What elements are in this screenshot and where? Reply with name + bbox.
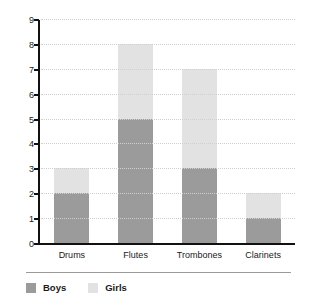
gridline [41, 168, 295, 170]
bar-segment-girls[interactable] [118, 44, 153, 119]
bar-segment-boys[interactable] [246, 218, 281, 243]
y-axis-tick-label: 6 [20, 90, 34, 99]
y-axis-tick-mark [34, 69, 39, 71]
gridline [41, 19, 295, 21]
y-axis-tick-label: 5 [20, 115, 34, 124]
y-axis-tick-label: 8 [20, 40, 34, 49]
legend-separator [26, 272, 291, 273]
gridline [41, 218, 295, 220]
y-axis-tick-mark [34, 143, 39, 145]
y-axis-tick-label: 1 [20, 215, 34, 224]
y-axis-tick-mark [34, 19, 39, 21]
y-axis-tick-mark [34, 218, 39, 220]
x-axis-tick-label: Flutes [123, 250, 148, 260]
gridline [41, 193, 295, 195]
legend-item-girls[interactable]: Girls [88, 283, 127, 293]
bar-segment-girls[interactable] [54, 168, 89, 193]
gridline [41, 69, 295, 71]
y-axis-tick-label: 9 [20, 16, 34, 25]
x-axis-tick-labels: DrumsFlutesTrombonesClarinets [40, 250, 295, 266]
x-axis-tick-label: Clarinets [245, 250, 281, 260]
y-axis-tick-mark [34, 193, 39, 195]
y-axis-tick-label: 7 [20, 65, 34, 74]
bar-segment-girls[interactable] [246, 193, 281, 218]
gridline [41, 143, 295, 145]
legend-item-boys[interactable]: Boys [26, 283, 66, 293]
bar-group[interactable] [54, 19, 89, 243]
y-axis-tick-label: 3 [20, 165, 34, 174]
legend-swatch-icon [88, 283, 98, 293]
y-axis-tick-label: 2 [20, 190, 34, 199]
y-axis-tick-mark [34, 243, 39, 245]
gridline [41, 119, 295, 121]
y-axis-tick-mark [34, 44, 39, 46]
bar-group[interactable] [182, 19, 217, 243]
bar-segment-boys[interactable] [182, 168, 217, 243]
legend-swatch-icon [26, 283, 36, 293]
chart-legend: BoysGirls [26, 283, 127, 293]
stacked-bar-chart: DrumsFlutesTrombonesClarinets 0123456789… [0, 0, 311, 307]
bar-group[interactable] [118, 19, 153, 243]
y-axis-tick-label: 0 [20, 240, 34, 249]
x-axis-tick-label: Trombones [177, 250, 222, 260]
legend-label: Girls [105, 283, 127, 293]
x-axis-tick-label: Drums [59, 250, 86, 260]
y-axis-tick-mark [34, 119, 39, 121]
bars-layer [40, 20, 295, 243]
bar-group[interactable] [246, 19, 281, 243]
gridline [41, 44, 295, 46]
bar-segment-boys[interactable] [118, 119, 153, 243]
x-axis-line [38, 243, 295, 245]
gridline [41, 94, 295, 96]
y-axis-tick-mark [34, 94, 39, 96]
plot-area: DrumsFlutesTrombonesClarinets 0123456789 [0, 0, 311, 268]
y-axis-tick-mark [34, 168, 39, 170]
y-axis-tick-label: 4 [20, 140, 34, 149]
legend-label: Boys [43, 283, 66, 293]
